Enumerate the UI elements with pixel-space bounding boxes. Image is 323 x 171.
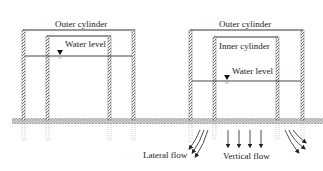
diagram-canvas: Outer cylinder Water level [0, 0, 323, 171]
water-level-icon [224, 75, 230, 80]
right-outer-cylinder-label: Outer cylinder [219, 19, 271, 29]
outer-wall-left [22, 30, 25, 120]
lateral-flow-label: Lateral flow [143, 150, 188, 160]
water-level-icon [57, 50, 63, 55]
inner-wall-right [276, 37, 279, 120]
inner-wall-right [108, 36, 111, 120]
inner-wall-left [46, 36, 49, 120]
outer-wall-right [301, 30, 304, 120]
inner-wall-left [213, 37, 216, 120]
outer-wall-right [132, 30, 135, 120]
right-water-level-label: Water level [232, 66, 274, 76]
vertical-flow-arrows [228, 130, 261, 146]
right-diagram: Outer cylinder Inner cylinder Water leve… [143, 19, 305, 161]
vertical-flow-label: Vertical flow [223, 151, 270, 161]
outer-wall-left [189, 30, 192, 120]
right-inner-cylinder-label: Inner cylinder [219, 41, 270, 51]
left-outer-cylinder-label: Outer cylinder [55, 19, 107, 29]
lateral-flow-arrows-left [190, 130, 208, 156]
left-water-level-label: Water level [65, 39, 107, 49]
